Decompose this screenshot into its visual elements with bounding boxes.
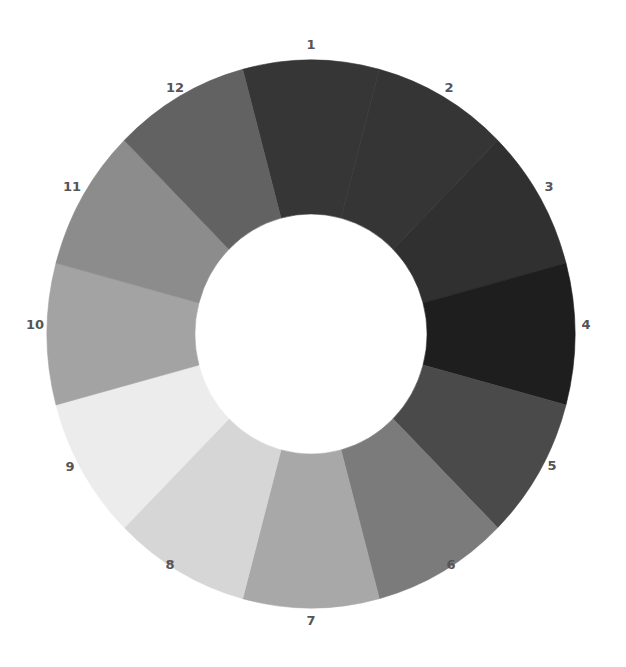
segment-label-11: 11 (63, 179, 81, 194)
segment-label-5: 5 (547, 458, 556, 473)
segment-label-4: 4 (581, 317, 590, 332)
segment-label-2: 2 (444, 80, 453, 95)
segment-label-1: 1 (306, 37, 315, 52)
segment-label-12: 12 (166, 80, 184, 95)
segment-label-7: 7 (306, 613, 315, 628)
segment-label-3: 3 (544, 179, 553, 194)
wheel-segments (47, 60, 575, 608)
segment-label-8: 8 (165, 557, 174, 572)
segment-label-10: 10 (26, 317, 44, 332)
segment-label-6: 6 (446, 557, 455, 572)
segment-label-9: 9 (65, 459, 74, 474)
donut-wheel: 1 2 3 4 5 6 7 8 9 10 11 12 (0, 0, 626, 667)
